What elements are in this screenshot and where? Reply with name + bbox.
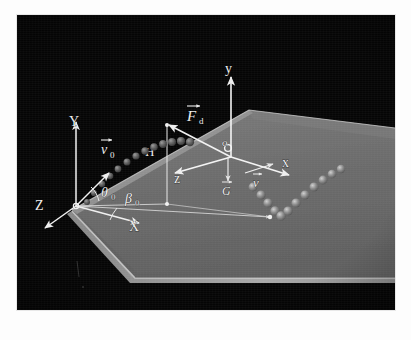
- landing-point-marker: [268, 215, 272, 219]
- launch-axis-z-label: Z: [35, 198, 44, 213]
- figure-page: H: [0, 0, 411, 340]
- figure-image: H: [17, 15, 395, 310]
- landing-axis-x-label: x: [282, 155, 289, 170]
- landing-origin-label: o: [222, 136, 228, 148]
- initial-velocity-symbol: v: [101, 142, 108, 157]
- launch-axis-y-label: Y: [69, 114, 79, 129]
- theta-subscript: 0: [111, 192, 116, 202]
- beta-subscript: 0: [135, 198, 140, 208]
- scene-svg: H: [17, 15, 395, 310]
- drag-force-subscript: d: [199, 116, 204, 126]
- landing-axis-y-label: y: [225, 61, 232, 76]
- initial-velocity-subscript: 0: [110, 150, 115, 160]
- gravity-symbol: G: [222, 184, 231, 198]
- theta-symbol: θ: [101, 185, 108, 200]
- landing-axis-z-label: z: [174, 171, 180, 186]
- launch-axis-x-label: X: [129, 219, 139, 234]
- drag-force-symbol: F: [186, 108, 197, 124]
- gravity-label: G: [222, 181, 232, 199]
- instant-velocity-symbol: v: [253, 175, 259, 190]
- beta-symbol: β: [124, 191, 132, 206]
